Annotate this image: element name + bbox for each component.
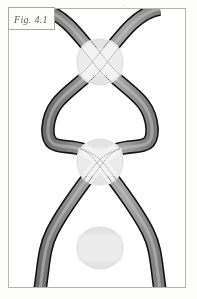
figure-label-text: Fig. 4.1: [14, 15, 48, 25]
figure-page: Fig. 4.1: [0, 0, 197, 299]
figure-label-box: Fig. 4.1: [8, 7, 55, 30]
braid-figure: [0, 0, 197, 299]
